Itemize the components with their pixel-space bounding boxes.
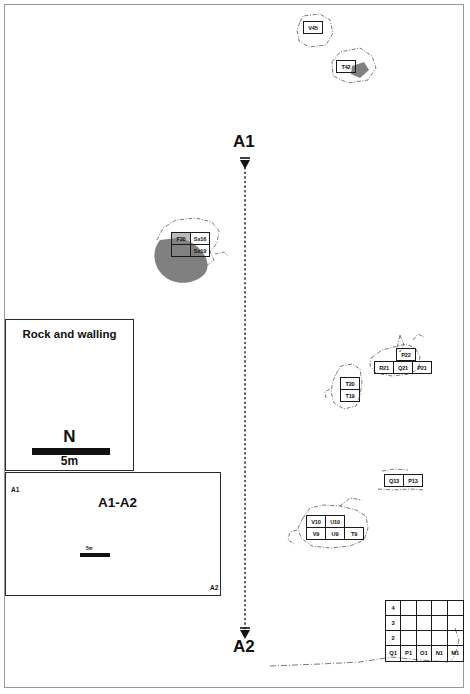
cell-row: V45 bbox=[303, 21, 323, 34]
grid-row: 4 bbox=[386, 601, 463, 616]
cell-t42: T42 bbox=[336, 60, 356, 73]
feature-cells-t42: T42 bbox=[336, 60, 356, 73]
cell-row: P22 bbox=[396, 348, 416, 361]
grid-cell bbox=[401, 631, 416, 646]
cell-q21: Q21 bbox=[393, 361, 413, 374]
grid-cell bbox=[432, 601, 447, 616]
section-profile-end-label: A2 bbox=[210, 584, 218, 591]
grid-cell bbox=[448, 631, 463, 646]
grid-cell bbox=[401, 601, 416, 616]
grid-cell-m1: M1 bbox=[448, 646, 463, 661]
section-label-a2: A2 bbox=[233, 637, 255, 657]
cell-row: R21 Q21 P21 bbox=[374, 361, 432, 374]
grid-cell-4: 4 bbox=[386, 601, 401, 616]
cell-blank bbox=[171, 244, 191, 257]
grid-cell-3: 3 bbox=[386, 616, 401, 631]
cell-p22: P22 bbox=[396, 348, 416, 361]
grid-cell bbox=[432, 616, 447, 631]
cell-row: V9 U9 T9 bbox=[306, 527, 364, 540]
grid-cell bbox=[417, 601, 432, 616]
feature-cells-v9-group: V10 U10 V9 U9 T9 bbox=[306, 515, 364, 540]
site-plan-figure: A1 A2 V45 T42 F30 Sx16 Sx19 P22 R21 Q21 … bbox=[0, 0, 470, 694]
cell-p13: P13 bbox=[403, 474, 423, 487]
cell-row: T19 bbox=[340, 389, 360, 402]
feature-cells-t20-t19: T20 T19 bbox=[340, 377, 360, 402]
grid-cell-o1: O1 bbox=[417, 646, 432, 661]
grid-cell bbox=[448, 616, 463, 631]
grid-cell bbox=[432, 631, 447, 646]
section-scale-label: 5m bbox=[86, 546, 93, 551]
grid-cell-p1: P1 bbox=[401, 646, 416, 661]
grid-cell bbox=[417, 616, 432, 631]
section-profile-start-label: A1 bbox=[11, 486, 19, 493]
section-line-a1-a2 bbox=[240, 158, 250, 639]
grid-cell-n1: N1 bbox=[432, 646, 447, 661]
cell-v45: V45 bbox=[303, 21, 323, 34]
cell-v9: V9 bbox=[306, 527, 326, 540]
section-label-a1: A1 bbox=[233, 132, 255, 152]
cell-u9: U9 bbox=[325, 527, 345, 540]
cell-q13: Q13 bbox=[384, 474, 404, 487]
grid-row: 2 bbox=[386, 631, 463, 646]
cell-p21: P21 bbox=[412, 361, 432, 374]
cell-row: T42 bbox=[336, 60, 356, 73]
cell-row: Q13 P13 bbox=[384, 474, 423, 487]
grid-cell bbox=[417, 631, 432, 646]
grid-cell-q1: Q1 bbox=[386, 646, 401, 661]
cell-r21: R21 bbox=[374, 361, 394, 374]
cell-t19: T19 bbox=[340, 389, 360, 402]
site-grid-reference: 4 3 2 Q1 P1 O1 N1 M1 bbox=[385, 600, 464, 662]
feature-cells-q13-p13: Q13 P13 bbox=[384, 474, 423, 487]
grid-row: 3 bbox=[386, 616, 463, 631]
cell-t9: T9 bbox=[344, 527, 364, 540]
cell-sx19: Sx19 bbox=[190, 244, 210, 257]
legend-scale-label: 5m bbox=[6, 454, 133, 468]
legend-panel: Rock and walling N 5m bbox=[5, 319, 134, 471]
section-profile-title: A1-A2 bbox=[98, 495, 137, 510]
legend-title: Rock and walling bbox=[6, 328, 133, 340]
cell-row: Sx19 bbox=[171, 244, 210, 257]
feature-cells-f30: F30 Sx16 Sx19 bbox=[171, 232, 210, 257]
grid-row: Q1 P1 O1 N1 M1 bbox=[386, 646, 463, 661]
grid-cell bbox=[448, 601, 463, 616]
north-label: N bbox=[6, 427, 133, 447]
grid-cell-2: 2 bbox=[386, 631, 401, 646]
section-profile-panel: A1-A2 A1 A2 5m bbox=[5, 472, 221, 596]
feature-cells-v45: V45 bbox=[303, 21, 323, 34]
feature-cells-p21-row: R21 Q21 P21 bbox=[374, 361, 432, 374]
section-scale-bar bbox=[80, 553, 110, 557]
grid-cell bbox=[401, 616, 416, 631]
feature-cells-p22: P22 bbox=[396, 348, 416, 361]
